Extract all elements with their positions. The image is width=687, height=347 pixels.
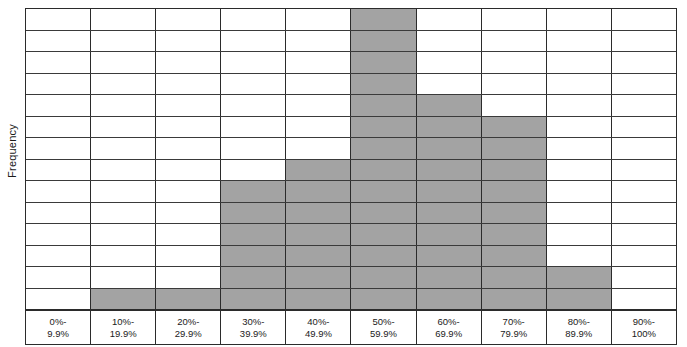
x-axis-tick-label: 30%-39.9%	[221, 311, 286, 344]
bar-column[interactable]	[547, 9, 612, 309]
x-axis-tick-label-line: 40%-	[307, 316, 329, 328]
bar[interactable]	[482, 116, 546, 309]
x-axis-tick-label: 70%-79.9%	[482, 311, 547, 344]
bar-column[interactable]	[286, 9, 351, 309]
x-axis-tick-label: 50%-59.9%	[351, 311, 416, 344]
bar-column[interactable]	[482, 9, 547, 309]
x-axis-tick-label-line: 100%	[632, 328, 656, 340]
bar-column[interactable]	[612, 9, 676, 309]
x-axis-tick-label-line: 50%-	[372, 316, 394, 328]
x-axis-tick-label: 90%-100%	[612, 311, 676, 344]
x-axis-tick-label-line: 59.9%	[370, 328, 397, 340]
x-axis-tick-label: 80%-89.9%	[547, 311, 612, 344]
x-axis-tick-label-line: 80%-	[568, 316, 590, 328]
bar[interactable]	[351, 9, 415, 309]
y-axis-title-text: Frequency	[6, 124, 18, 178]
bar-column[interactable]	[221, 9, 286, 309]
bar-column[interactable]	[91, 9, 156, 309]
x-axis-tick-label-line: 49.9%	[305, 328, 332, 340]
bar[interactable]	[417, 95, 481, 309]
x-axis-tick-label: 10%-19.9%	[91, 311, 156, 344]
bar[interactable]	[547, 266, 611, 309]
x-axis-tick-label-line: 89.9%	[565, 328, 592, 340]
x-axis-tick-label: 60%-69.9%	[417, 311, 482, 344]
bar[interactable]	[156, 288, 220, 309]
x-axis-tick-label-line: 39.9%	[240, 328, 267, 340]
bar[interactable]	[286, 159, 350, 309]
x-axis-tick-label-line: 70%-	[503, 316, 525, 328]
bar-column[interactable]	[351, 9, 416, 309]
bar-columns	[26, 9, 676, 309]
x-axis-tick-label-line: 90%-	[633, 316, 655, 328]
x-axis-tick-label-line: 20%-	[177, 316, 199, 328]
bar-column[interactable]	[417, 9, 482, 309]
x-axis-tick-label: 0%-9.9%	[26, 311, 91, 344]
x-axis-tick-label-line: 9.9%	[47, 328, 69, 340]
x-axis-tick-label: 40%-49.9%	[286, 311, 351, 344]
bar-column[interactable]	[26, 9, 91, 309]
x-axis-tick-label-line: 60%-	[438, 316, 460, 328]
x-axis-tick-label-line: 79.9%	[500, 328, 527, 340]
y-axis-title: Frequency	[0, 0, 24, 302]
x-axis-labels: 0%-9.9%10%-19.9%20%-29.9%30%-39.9%40%-49…	[25, 310, 677, 345]
x-axis-tick-label-line: 10%-	[112, 316, 134, 328]
bar[interactable]	[221, 180, 285, 309]
x-axis-tick-label-line: 69.9%	[435, 328, 462, 340]
x-axis-tick-label-line: 29.9%	[175, 328, 202, 340]
bar-column[interactable]	[156, 9, 221, 309]
histogram-chart: Frequency 0%-9.9%10%-19.9%20%-29.9%30%-3…	[0, 0, 687, 347]
plot-area	[25, 8, 677, 310]
x-axis-tick-label-line: 0%-	[50, 316, 67, 328]
bar[interactable]	[91, 288, 155, 309]
x-axis-tick-label-line: 19.9%	[110, 328, 137, 340]
x-axis-tick-label-line: 30%-	[242, 316, 264, 328]
x-axis-tick-label: 20%-29.9%	[156, 311, 221, 344]
